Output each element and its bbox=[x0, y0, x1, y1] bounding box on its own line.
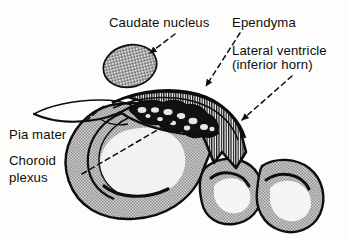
parahippocampal-gyri bbox=[200, 159, 323, 232]
lateral-ventricle-leader bbox=[242, 76, 292, 120]
caudate-leader bbox=[150, 34, 175, 53]
figure-canvas: Caudate nucleus Ependyma Lateral ventric… bbox=[0, 0, 349, 240]
caudate-nucleus-structure bbox=[99, 39, 162, 93]
label-plexus: plexus bbox=[9, 170, 48, 185]
label-lateral-ventricle-sub: (inferior horn) bbox=[232, 57, 313, 72]
anatomy-illustration bbox=[0, 0, 349, 240]
label-ependyma: Ependyma bbox=[232, 15, 296, 30]
label-caudate-nucleus: Caudate nucleus bbox=[109, 15, 209, 30]
label-choroid: Choroid bbox=[9, 153, 56, 168]
label-lateral-ventricle: Lateral ventricle bbox=[232, 43, 327, 58]
label-pia-mater: Pia mater bbox=[9, 127, 66, 142]
